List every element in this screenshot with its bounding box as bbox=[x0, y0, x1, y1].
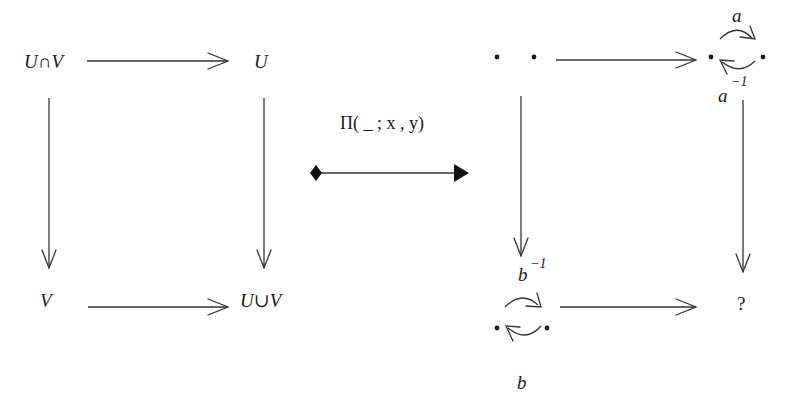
svg-text:b: b bbox=[518, 264, 528, 285]
svg-text:a: a bbox=[718, 85, 728, 106]
svg-text:−1: −1 bbox=[530, 256, 546, 271]
arrow-inclusion-right bbox=[257, 98, 271, 268]
node-unknown: ? bbox=[737, 293, 745, 314]
node-u-cap-v: U∩V bbox=[24, 51, 65, 72]
svg-text:−1: −1 bbox=[731, 74, 747, 89]
label-b: b bbox=[517, 372, 527, 393]
node-two-points bbox=[495, 55, 537, 60]
triangle-head-icon bbox=[454, 164, 469, 182]
diamond-tail-icon bbox=[310, 165, 322, 181]
node-u: U bbox=[254, 51, 269, 72]
arrow-right-right-square bbox=[736, 100, 750, 272]
arrow-inclusion-top bbox=[87, 53, 228, 69]
arrow-inclusion-bottom bbox=[88, 299, 228, 315]
node-u-cup-v: U∪V bbox=[240, 290, 284, 311]
functor-arrow bbox=[310, 164, 469, 182]
functor-label: Π( _ ; x , y) bbox=[340, 113, 424, 134]
node-loop-a bbox=[709, 26, 766, 74]
node-v: V bbox=[40, 290, 54, 311]
arrow-inclusion-left bbox=[42, 98, 56, 268]
pushout-diagram: U∩V U V U∪V Π( _ ; x , y) bbox=[0, 0, 788, 410]
node-loop-b bbox=[495, 293, 550, 341]
arrow-top-right-square bbox=[556, 52, 696, 68]
label-b-inverse: b −1 bbox=[518, 256, 546, 285]
arrow-left-right-square bbox=[514, 96, 528, 256]
label-a: a bbox=[732, 5, 742, 26]
arrow-bottom-right-square bbox=[560, 299, 696, 315]
